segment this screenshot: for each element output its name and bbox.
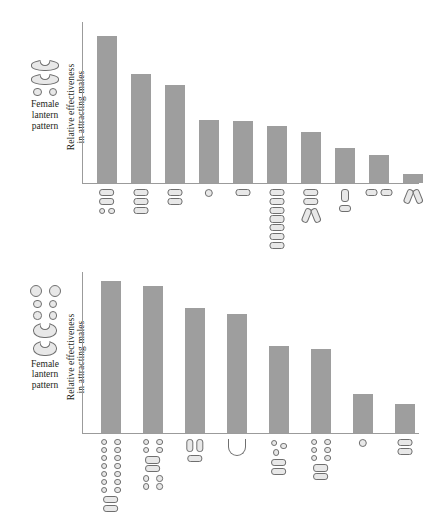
u-bend-icon [228, 439, 246, 456]
circle-icon [157, 475, 163, 481]
circle-icon [115, 487, 121, 493]
bar-slot-two-stacked-ovals[interactable] [158, 85, 192, 184]
bar-single-oval[interactable] [233, 121, 253, 183]
circle-row [271, 439, 287, 449]
pattern-icon-two-stacked-ovals [398, 433, 413, 455]
bar-slot-seven-stacked-ovals[interactable] [260, 126, 294, 183]
bar-seven-stacked-ovals[interactable] [267, 126, 287, 183]
oval-icon [341, 189, 348, 202]
bar-group-top [90, 22, 429, 183]
bar-slot-two-ovals-over-two-small-circles[interactable] [90, 36, 124, 183]
bar-slot-single-small-circle[interactable] [192, 120, 226, 183]
oval-icon [398, 439, 413, 446]
oval-icon [272, 468, 287, 475]
bar-two-side-by-side-ovals[interactable] [369, 155, 389, 183]
circle-icon [143, 475, 149, 481]
bar-two-columns-of-circles-over-two-ovals[interactable] [311, 349, 331, 433]
oval-icon [270, 233, 285, 240]
bar-slot-two-vertical-ovals-over-one-oval[interactable] [174, 308, 216, 433]
oval-icon [272, 459, 287, 466]
bar-scattered-circles-over-two-ovals[interactable] [269, 346, 289, 433]
circle-row [101, 463, 121, 469]
chart-panel-bottom: Female lantern pattern Relative effectiv… [0, 255, 429, 510]
bar-slot-two-columns-of-seven-circles-over-two-ovals[interactable] [90, 281, 132, 433]
circle-icon [205, 189, 213, 197]
circle-icon [157, 439, 163, 445]
slash-icon [411, 188, 423, 204]
slash-icon [309, 207, 321, 223]
circle-row [143, 447, 163, 453]
oval-icon [134, 207, 149, 214]
circle-icon [271, 440, 277, 446]
bar-slot-two-stacked-ovals[interactable] [384, 404, 426, 433]
circle-icon [325, 455, 331, 461]
bar-u-bend[interactable] [227, 314, 247, 433]
oval-row [366, 189, 393, 196]
circle-icon [49, 300, 57, 308]
bar-slot-scattered-circles-over-two-ovals[interactable] [258, 346, 300, 433]
circle-row [311, 439, 331, 445]
circle-row [101, 447, 121, 453]
bar-two-vertical-ovals-over-one-oval[interactable] [185, 308, 205, 433]
bar-slot-u-bend[interactable] [216, 314, 258, 433]
bar-two-ovals-over-v-slashes[interactable] [301, 132, 321, 183]
wavy-lantern-icon [31, 74, 59, 85]
oval-icon [134, 189, 149, 196]
bar-circles-ovals-circles-stack[interactable] [143, 286, 163, 433]
legend-circle-row [33, 88, 57, 96]
oval-icon [168, 189, 183, 196]
pattern-icon-single-circle [359, 433, 367, 447]
oval-icon [100, 189, 115, 196]
bar-single-circle[interactable] [353, 394, 373, 434]
legend-circle-row [33, 300, 57, 308]
bar-v-slashes-only[interactable] [403, 174, 423, 183]
bar-two-stacked-ovals[interactable] [395, 404, 415, 433]
bar-group-bottom [90, 272, 426, 433]
x-axis-line-bottom [82, 433, 419, 434]
bar-two-columns-of-seven-circles-over-two-ovals[interactable] [101, 281, 121, 433]
pattern-icon-two-stacked-ovals [168, 183, 183, 205]
circle-icon [101, 487, 107, 493]
oval-icon [381, 189, 393, 196]
bar-slot-two-side-by-side-ovals[interactable] [362, 155, 396, 183]
pattern-icon-u-bend [228, 433, 246, 456]
circle-icon [33, 311, 41, 319]
oval-icon [304, 198, 319, 205]
v-slash-row [405, 189, 421, 204]
circle-row [101, 471, 121, 477]
bar-slot-two-columns-of-circles-over-two-ovals[interactable] [300, 349, 342, 433]
circle-row [311, 447, 331, 453]
bar-slot-vertical-oval-over-horizontal-oval[interactable] [328, 148, 362, 183]
bar-two-stacked-ovals[interactable] [165, 85, 185, 184]
bar-slot-single-circle[interactable] [342, 394, 384, 434]
bar-slot-three-stacked-ovals[interactable] [124, 74, 158, 183]
bar-vertical-oval-over-horizontal-oval[interactable] [335, 148, 355, 183]
bar-slot-circles-ovals-circles-stack[interactable] [132, 286, 174, 433]
pattern-icon-single-small-circle [205, 183, 213, 197]
bar-single-small-circle[interactable] [199, 120, 219, 183]
circle-icon [359, 439, 367, 447]
circle-icon [143, 447, 149, 453]
circle-icon [143, 439, 149, 445]
oval-icon [146, 465, 161, 472]
bar-slot-two-ovals-over-v-slashes[interactable] [294, 132, 328, 183]
bar-slot-v-slashes-only[interactable] [396, 174, 429, 183]
oval-icon [339, 205, 351, 212]
bar-three-stacked-ovals[interactable] [131, 74, 151, 183]
circle-icon [143, 483, 149, 489]
circle-icon [49, 285, 61, 297]
oval-icon [186, 439, 193, 452]
circle-row [143, 475, 163, 481]
oval-icon [270, 189, 285, 196]
y-axis-line-bottom [82, 272, 83, 433]
legend-large-circle-row [30, 285, 61, 297]
pattern-icon-two-columns-of-circles-over-two-ovals [311, 433, 331, 480]
bar-slot-single-oval[interactable] [226, 121, 260, 183]
oval-icon [304, 189, 319, 196]
bar-two-ovals-over-two-small-circles[interactable] [97, 36, 117, 183]
oval-icon [314, 473, 329, 480]
pattern-icon-single-oval [236, 183, 251, 196]
kidney-lantern-icon [33, 323, 57, 338]
circle-icon [101, 455, 107, 461]
circle-row [101, 487, 121, 493]
